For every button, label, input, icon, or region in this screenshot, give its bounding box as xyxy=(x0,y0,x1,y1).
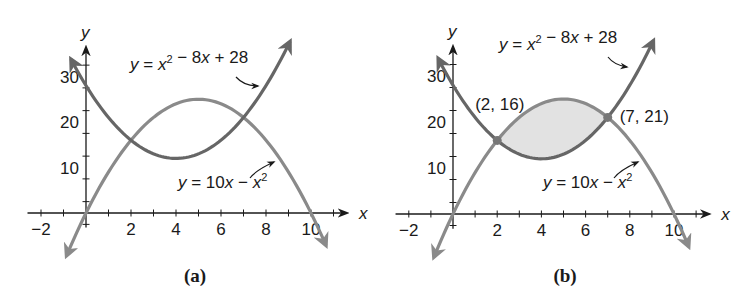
curve1-equation-label: y = x2 − 8x + 28 xyxy=(129,48,248,74)
x-tick-label: 6 xyxy=(581,221,590,240)
x-tick-label: 6 xyxy=(216,220,225,239)
intersection-point xyxy=(603,113,612,122)
x-tick-label: 2 xyxy=(126,220,135,239)
panel-a: −2246810102030xyy = x2 − 8x + 28y = 10x … xyxy=(28,23,369,287)
x-tick-label: 8 xyxy=(625,221,634,240)
panel-caption: (b) xyxy=(553,265,576,287)
x-tick-label: 2 xyxy=(492,221,501,240)
x-tick-label: −2 xyxy=(399,221,418,240)
x-axis-label: x xyxy=(358,204,368,223)
x-axis-label: x xyxy=(720,205,730,224)
chart-canvas: −2246810102030xyy = x2 − 8x + 28y = 10x … xyxy=(0,0,740,308)
intersection-point xyxy=(493,136,502,145)
y-tick-label: 10 xyxy=(60,159,79,178)
y-tick-label: 10 xyxy=(427,159,446,178)
x-tick-label: 4 xyxy=(171,220,180,239)
x-tick-label: 4 xyxy=(537,221,546,240)
y-tick-label: 20 xyxy=(427,113,446,132)
point-label-7-21: (7, 21) xyxy=(620,107,669,126)
curve1-equation-label: y = x2 − 8x + 28 xyxy=(498,28,617,54)
panel-b: −2246810102030xyy = x2 − 8x + 28y = 10x … xyxy=(396,22,731,287)
x-tick-label: 8 xyxy=(261,220,270,239)
y-axis-label: y xyxy=(80,23,91,42)
y-tick-label: 20 xyxy=(60,113,79,132)
pointer-arrow xyxy=(236,77,258,86)
y-axis-label: y xyxy=(447,22,458,41)
point-label-2-16: (2, 16) xyxy=(475,95,524,114)
pointer-arrow xyxy=(608,57,627,67)
panel-caption: (a) xyxy=(184,265,206,287)
x-tick-label: −2 xyxy=(31,220,50,239)
curve2-equation-label: y = 10x − x2 xyxy=(542,171,632,192)
